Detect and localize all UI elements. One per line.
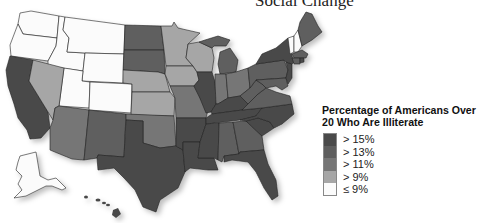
state-hawaii xyxy=(84,196,121,219)
state-florida xyxy=(224,150,278,200)
state-maine xyxy=(298,12,322,46)
legend-item-gt9: > 9% xyxy=(323,171,476,184)
map-legend: Percentage of Americans Over 20 Who Are … xyxy=(322,104,476,196)
state-montana xyxy=(63,17,125,54)
legend-item-gt13: > 13% xyxy=(323,146,476,159)
legend-swatch xyxy=(323,158,337,171)
state-wyoming xyxy=(82,53,124,83)
legend-swatch xyxy=(323,133,337,146)
state-iowa xyxy=(165,66,199,86)
state-north-dakota xyxy=(124,25,164,50)
state-kansas xyxy=(131,92,175,116)
legend-label: > 15% xyxy=(343,133,375,145)
legend-label: > 13% xyxy=(343,146,375,158)
legend-label: ≤ 9% xyxy=(343,183,368,195)
state-new-mexico xyxy=(84,110,126,160)
state-alaska xyxy=(14,152,66,198)
legend-swatch xyxy=(323,183,337,196)
legend-swatch xyxy=(323,171,337,184)
legend-title-line-1: Percentage of Americans Over xyxy=(322,104,476,116)
legend-item-gt11: > 11% xyxy=(323,158,476,171)
legend-label: > 11% xyxy=(343,158,374,170)
state-rhode-island xyxy=(300,58,304,63)
legend-item-gt15: > 15% xyxy=(323,133,476,146)
legend-label: > 9% xyxy=(343,171,368,183)
state-colorado xyxy=(89,82,132,113)
legend-item-le9: ≤ 9% xyxy=(323,183,476,196)
legend-title-line-2: 20 Who Are Illiterate xyxy=(322,116,476,128)
legend-swatch xyxy=(323,146,337,159)
state-arizona xyxy=(50,106,89,160)
